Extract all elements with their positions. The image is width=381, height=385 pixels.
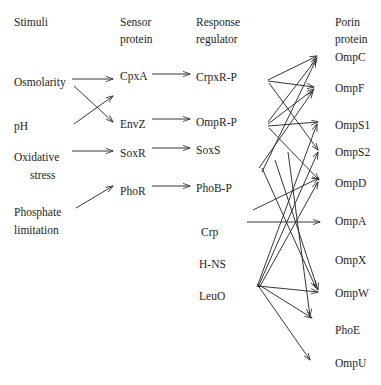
edge-phosphate-to-phor bbox=[76, 186, 113, 208]
node-ompc: OmpC bbox=[335, 51, 366, 64]
edge-soxs-to-ompc bbox=[262, 60, 316, 172]
node-ompw: OmpW bbox=[335, 287, 369, 300]
node-oxidative-stress: stress bbox=[30, 169, 56, 182]
edge-ompr-p-to-ompc bbox=[268, 58, 317, 122]
edge-soxs-to-ompf bbox=[259, 91, 313, 168]
node-osmolarity: Osmolarity bbox=[14, 76, 66, 89]
node-phor: PhoR bbox=[120, 185, 146, 198]
edge-osmolarity-to-envz bbox=[74, 86, 113, 122]
node-omps1: OmpS1 bbox=[335, 119, 370, 132]
column-header-sensor-line2: protein bbox=[120, 33, 153, 46]
node-ph: pH bbox=[14, 120, 28, 133]
node-phosphate: Phosphate bbox=[14, 206, 61, 219]
edge-ompr-p-to-ompf bbox=[268, 89, 314, 124]
edge-crp-to-ompd bbox=[253, 178, 319, 210]
node-leuo: LeuO bbox=[199, 290, 225, 303]
node-envz: EnvZ bbox=[120, 118, 146, 131]
column-header-porin-line1: Porin bbox=[335, 16, 360, 29]
edge-crp-to-omps2 bbox=[258, 152, 318, 287]
node-crp: Crp bbox=[201, 226, 218, 239]
node-ompd: OmpD bbox=[335, 177, 366, 190]
edge-crpxr-p-to-ompf bbox=[268, 81, 314, 87]
column-header-sensor-line1: Sensor bbox=[120, 16, 151, 29]
node-phoe: PhoE bbox=[335, 324, 360, 337]
node-cpxa: CpxA bbox=[120, 70, 147, 83]
edge-leuo-to-ompu bbox=[257, 284, 310, 360]
edge-h-ns-to-phoe bbox=[259, 285, 312, 318]
edge-crp-to-ompw bbox=[262, 168, 316, 288]
edge-h-ns-to-ompw bbox=[258, 286, 318, 292]
node-soxr: SoxR bbox=[120, 147, 146, 160]
node-phosphate-limitation: limitation bbox=[14, 224, 59, 237]
node-soxs: SoxS bbox=[196, 144, 220, 157]
edge-crpxr-p-to-omps2 bbox=[269, 83, 318, 150]
figure-canvas: Stimuli Sensor protein Response regulato… bbox=[0, 0, 381, 385]
column-header-stimuli: Stimuli bbox=[14, 16, 48, 29]
node-ompa: OmpA bbox=[335, 215, 366, 228]
edge-h-ns-to-phoe bbox=[288, 152, 310, 316]
column-header-regulator-line2: regulator bbox=[196, 33, 238, 46]
edge-crpxr-p-to-ompc bbox=[268, 56, 317, 80]
node-ompx: OmpX bbox=[335, 254, 366, 267]
node-phob-p: PhoB-P bbox=[196, 182, 232, 195]
edge-ph-to-cpxa bbox=[74, 96, 113, 124]
node-ompu: OmpU bbox=[335, 357, 366, 370]
node-oxidative: Oxidative bbox=[14, 151, 59, 164]
edge-crp-to-omps1 bbox=[257, 124, 317, 287]
column-header-porin-line2: protein bbox=[335, 33, 368, 46]
column-header-regulator-line1: Response bbox=[196, 16, 240, 29]
node-crpxr-p: CrpxR-P bbox=[196, 71, 237, 84]
edge-ompr-p-to-omps1 bbox=[268, 122, 318, 126]
node-omps2: OmpS2 bbox=[335, 146, 370, 159]
edge-h-ns-to-ompw bbox=[275, 160, 318, 290]
edge-network bbox=[0, 0, 381, 385]
node-ompr-p: OmpR-P bbox=[196, 116, 237, 129]
edge-h-ns-to-ompd bbox=[259, 182, 318, 288]
edge-ompr-p-to-ompd bbox=[269, 128, 319, 180]
node-h-ns: H-NS bbox=[199, 258, 226, 271]
node-ompf: OmpF bbox=[335, 82, 364, 95]
